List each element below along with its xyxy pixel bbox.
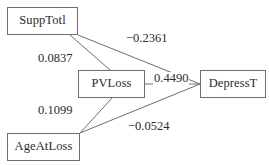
path-diagram: SuppTotl PVLoss DepressT AgeAtLoss −0.23…	[0, 0, 269, 165]
node-depresst-label: DepressT	[209, 77, 258, 91]
edge-label-supptotl-pvloss: 0.0837	[37, 52, 73, 65]
node-pvloss-label: PVLoss	[91, 77, 131, 91]
edge-label-pvloss-depresst: 0.4490	[153, 72, 189, 85]
node-depresst[interactable]: DepressT	[200, 70, 266, 98]
edge-label-ageatloss-pvloss: 0.1099	[37, 104, 73, 117]
edge-label-supptotl-depresst: −0.2361	[125, 32, 168, 45]
node-supptotl[interactable]: SuppTotl	[7, 7, 78, 35]
edge-label-ageatloss-depresst: −0.0524	[127, 120, 170, 133]
node-pvloss[interactable]: PVLoss	[78, 70, 145, 98]
node-supptotl-label: SuppTotl	[19, 14, 65, 28]
node-ageatloss[interactable]: AgeAtLoss	[7, 133, 80, 161]
edge-ageatloss-pvloss	[80, 98, 112, 133]
node-ageatloss-label: AgeAtLoss	[15, 140, 73, 154]
